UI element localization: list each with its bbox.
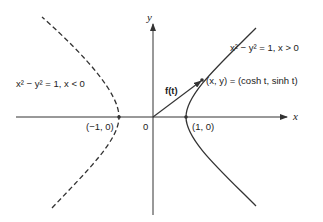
y-axis-label: y [147, 12, 152, 23]
left-vertex-label: (−1, 0) [86, 122, 114, 132]
x-axis-label: x [293, 111, 298, 122]
right-branch-label: x² − y² = 1, x > 0 [230, 43, 299, 53]
right-vertex-label: (1, 0) [192, 122, 214, 132]
vector-label: f(t) [165, 86, 178, 96]
left-vertex-point [117, 115, 121, 119]
hyperbola-diagram [0, 0, 323, 222]
param-point-label: (x, y) = (cosh t, sinh t) [206, 76, 298, 86]
left-branch-curve [42, 17, 119, 208]
origin-label: 0 [143, 122, 148, 132]
left-branch-label: x² − y² = 1, x < 0 [16, 79, 85, 89]
right-vertex-point [184, 115, 188, 119]
param-point [200, 78, 204, 82]
